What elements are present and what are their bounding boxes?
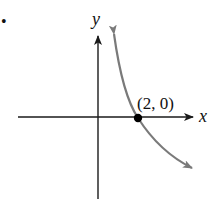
intercept-point — [134, 114, 142, 122]
y-axis-label: y — [90, 9, 100, 29]
list-bullet: • — [1, 13, 7, 30]
x-axis-label: x — [198, 106, 207, 126]
point-label: (2, 0) — [137, 94, 174, 113]
graph-figure: • y x (2, 0) — [0, 0, 216, 199]
